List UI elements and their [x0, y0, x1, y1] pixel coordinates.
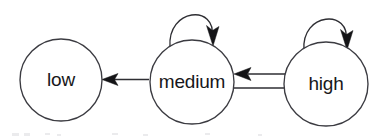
- node-medium[interactable]: medium: [150, 40, 234, 124]
- edge-medium-to-low: [102, 74, 149, 86]
- node-medium-label: medium: [159, 71, 225, 92]
- edge-high-to-medium: [234, 68, 286, 81]
- node-low[interactable]: low: [20, 39, 102, 121]
- node-high-label: high: [308, 73, 343, 94]
- node-low-label: low: [47, 69, 75, 90]
- node-high[interactable]: high: [284, 42, 368, 126]
- state-diagram-canvas: low medium high: [0, 0, 376, 140]
- scan-artifact-marks: [12, 133, 262, 136]
- state-diagram-figure: low medium high: [0, 0, 376, 140]
